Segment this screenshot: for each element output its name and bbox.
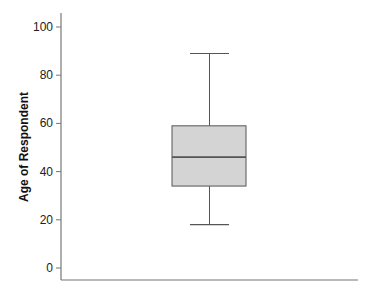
y-tick-label: 0 — [46, 261, 53, 275]
y-axis: 020406080100 — [33, 13, 61, 280]
y-tick-label: 40 — [40, 165, 54, 179]
box-plot-series — [172, 54, 246, 225]
iqr-box — [172, 126, 246, 186]
y-tick-label: 20 — [40, 213, 54, 227]
y-tick-label: 60 — [40, 116, 54, 130]
y-axis-title: Age of Respondent — [17, 92, 31, 202]
box-plot-chart: 020406080100 Age of Respondent — [0, 0, 373, 299]
y-tick-label: 100 — [33, 20, 53, 34]
y-tick-label: 80 — [40, 68, 54, 82]
plot-area — [172, 54, 246, 225]
